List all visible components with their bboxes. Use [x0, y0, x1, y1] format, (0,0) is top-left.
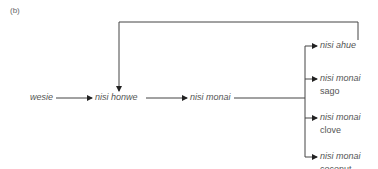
node-nisi-honwe: nisi honwe	[95, 92, 138, 103]
node-wesie: wesie	[30, 92, 53, 103]
branch-clove-sub: clove	[320, 125, 341, 136]
branch-sago-sub: sago	[320, 86, 340, 97]
diagram-connectors	[0, 0, 378, 169]
branch-clove-title: nisi monai	[320, 112, 361, 123]
branch-nisi-ahue: nisi ahue	[320, 40, 356, 51]
branch-sago-title: nisi monai	[320, 73, 361, 84]
branch-coconut-title: nisi monai	[320, 151, 361, 162]
branch-coconut-sub: coconut	[320, 164, 352, 169]
node-nisi-monai: nisi monai	[190, 92, 231, 103]
